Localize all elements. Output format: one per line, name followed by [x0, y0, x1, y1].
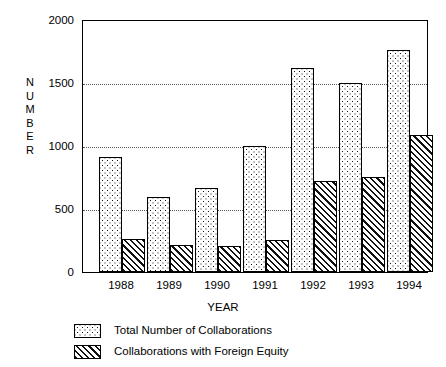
- legend-swatch-hatch-icon: [74, 345, 101, 359]
- bar-group-1990: [195, 21, 241, 272]
- bar-foreign-1993[interactable]: [362, 177, 385, 273]
- bar-total-1988[interactable]: [99, 157, 122, 272]
- bar-total-1991[interactable]: [243, 146, 266, 273]
- x-axis-tick-label-1989: 1989: [146, 280, 192, 292]
- bar-foreign-1991[interactable]: [266, 240, 289, 272]
- legend-item-foreign[interactable]: Collaborations with Foreign Equity: [74, 341, 404, 362]
- y-axis-tick-label: 1000: [32, 141, 74, 153]
- bar-total-1994[interactable]: [387, 50, 410, 272]
- y-axis-tick-label: 2000: [32, 15, 74, 27]
- x-axis-tick-label-1994: 1994: [386, 280, 432, 292]
- y-axis-tick-label: 500: [32, 204, 74, 216]
- plot-area: [82, 20, 428, 273]
- bar-foreign-1994[interactable]: [410, 135, 433, 272]
- legend-label-total: Total Number of Collaborations: [114, 324, 272, 337]
- bar-foreign-1988[interactable]: [122, 239, 145, 272]
- x-axis-tick-label-1988: 1988: [98, 280, 144, 292]
- legend-swatch-dots-icon: [74, 324, 101, 338]
- bar-group-1993: [339, 21, 385, 272]
- y-axis-tick-label: 0: [32, 267, 74, 279]
- y-axis-title-letter: M: [22, 103, 38, 117]
- bar-total-1990[interactable]: [195, 188, 218, 272]
- x-axis-tick-label-1990: 1990: [194, 280, 240, 292]
- y-axis-title-letter: B: [22, 117, 38, 131]
- bar-total-1992[interactable]: [291, 68, 314, 272]
- bar-chart-figure: N U M B E R 2000 1500 1000 500 0: [0, 0, 446, 367]
- x-axis-tick-label-1993: 1993: [338, 280, 384, 292]
- y-axis-tick-label: 1500: [32, 78, 74, 90]
- x-axis-tick-label-1991: 1991: [242, 280, 288, 292]
- x-axis-title: YEAR: [0, 301, 446, 313]
- bar-total-1989[interactable]: [147, 197, 170, 272]
- chart-legend: Total Number of Collaborations Collabora…: [74, 320, 404, 362]
- bar-group-1994: [387, 21, 433, 272]
- bar-total-1993[interactable]: [339, 83, 362, 272]
- x-axis-tick-label-1992: 1992: [290, 280, 336, 292]
- bar-group-1991: [243, 21, 289, 272]
- bar-foreign-1989[interactable]: [170, 245, 193, 272]
- legend-label-foreign: Collaborations with Foreign Equity: [114, 345, 289, 358]
- legend-item-total[interactable]: Total Number of Collaborations: [74, 320, 404, 341]
- y-axis-title-letter: U: [22, 90, 38, 104]
- bar-foreign-1990[interactable]: [218, 246, 241, 272]
- bar-group-1988: [99, 21, 145, 272]
- bar-group-1992: [291, 21, 337, 272]
- bar-group-1989: [147, 21, 193, 272]
- bar-foreign-1992[interactable]: [314, 181, 337, 272]
